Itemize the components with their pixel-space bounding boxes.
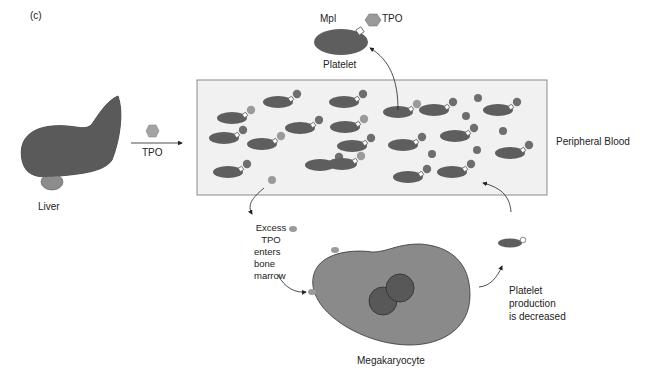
production-arrow — [479, 266, 502, 287]
outcome-line: is decreased — [509, 310, 566, 323]
excess-tpo-line: bone — [254, 258, 288, 270]
outcome-line: production — [509, 297, 566, 310]
excess-tpo-line: enters — [254, 246, 288, 258]
released-platelet-icon — [498, 237, 526, 247]
excess-tpo-line: TPO — [254, 234, 288, 246]
excess-tpo-icon — [289, 226, 297, 232]
outcome-label: Platelet production is decreased — [509, 284, 566, 323]
tpo-label: TPO — [382, 13, 403, 25]
excess-tpo-label: Excess TPO enters bone marrow — [254, 222, 288, 282]
megakaryocyte-icon — [308, 244, 470, 345]
panel-label: (c) — [30, 10, 42, 22]
excess-tpo-line: marrow — [254, 270, 288, 282]
excess-tpo-line: Excess — [254, 222, 288, 234]
tpo-secretion-label: TPO — [142, 147, 163, 159]
platelet-label: Platelet — [323, 59, 356, 71]
liver-label: Liver — [38, 201, 60, 213]
tpo-hexagon-icon — [146, 125, 159, 137]
peripheral-blood-label: Peripheral Blood — [556, 136, 630, 148]
outcome-line: Platelet — [509, 284, 566, 297]
megakaryocyte-label: Megakaryocyte — [357, 355, 425, 367]
mpl-label: Mpl — [320, 13, 336, 25]
liver-icon — [21, 96, 121, 190]
